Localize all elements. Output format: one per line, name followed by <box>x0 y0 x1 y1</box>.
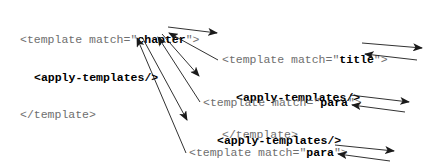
call-arrow-para-2-children <box>335 145 394 151</box>
return-arrow-para-1-children <box>352 105 405 112</box>
call-arrow-title-children <box>362 43 422 48</box>
call-flow-arrows <box>0 0 440 167</box>
return-arrow-para-2-children <box>338 154 390 161</box>
call-arrow-para-2 <box>142 37 187 120</box>
return-arrow-title <box>169 33 218 60</box>
call-arrow-para-1 <box>162 34 199 76</box>
return-arrow-para-2 <box>137 38 186 153</box>
return-arrow-title-children <box>365 54 417 60</box>
call-arrow-para-1-children <box>350 95 409 102</box>
call-arrow-title <box>168 27 217 33</box>
